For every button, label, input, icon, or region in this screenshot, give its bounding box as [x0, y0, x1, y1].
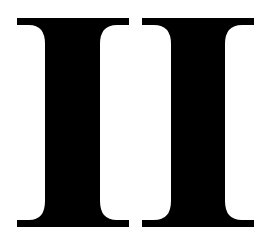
- letter-i-right: [142, 18, 254, 227]
- letter-i-left: [17, 18, 129, 227]
- numeral-text: II: [0, 0, 1, 1]
- serif-i-icon: [17, 18, 129, 227]
- serif-i-icon: [142, 18, 254, 227]
